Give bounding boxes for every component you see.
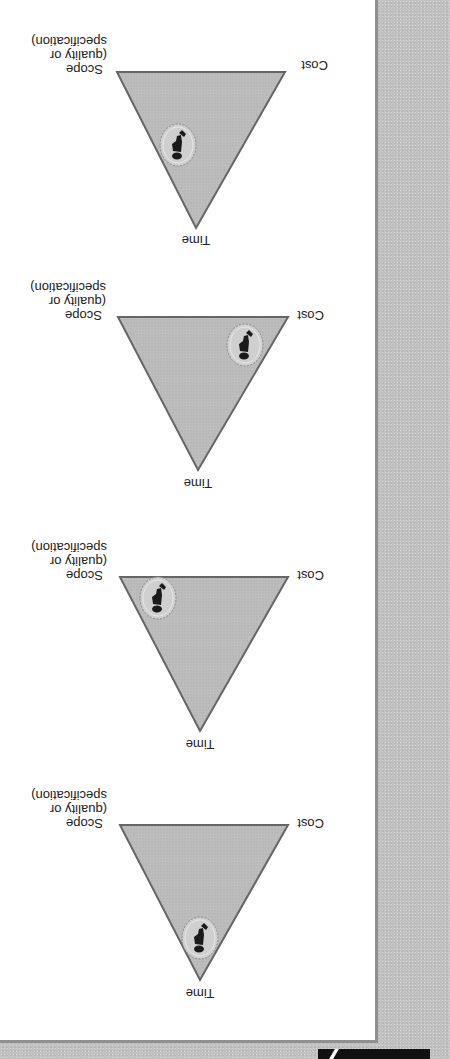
scope-sub-label-1: (quality or [49,554,107,569]
scope-sub-label-2: specification) [30,280,106,295]
scope-sub-label-2: specification) [31,540,107,555]
person-in-circle-icon [227,324,263,366]
triangle-diagram-1: Time Cost Scope (quality or specificatio… [31,788,324,1001]
person-in-circle-icon [140,577,176,619]
triangle-diagram-2: Time Cost Scope (quality or specificatio… [31,540,324,752]
triangles-canvas: Time Cost Scope (quality or specificatio… [0,0,450,1059]
cost-label: Cost [297,308,324,323]
scope-sub-label-2: specification) [31,34,107,49]
scope-sub-label-2: specification) [31,788,107,803]
scope-sub-label-1: (quality or [49,802,107,817]
triangle-diagram-4: Time Cost Scope (quality or specificatio… [31,34,328,248]
time-label: Time [186,737,214,752]
cost-label: Cost [297,568,324,583]
time-label: Time [186,986,214,1001]
figure-root: Time Cost Scope (quality or specificatio… [0,0,450,1059]
scope-label: Scope [66,62,103,77]
person-in-circle-icon [182,917,218,959]
person-in-circle-icon [160,124,196,166]
triangle-diagram-3: Time Cost Scope (quality or specificatio… [30,280,324,491]
time-label: Time [182,233,210,248]
cost-label: Cost [301,58,328,73]
triangle-shape [117,72,285,228]
scope-sub-label-1: (quality or [49,48,107,63]
scope-label: Scope [65,308,102,323]
triangle-shape [118,317,288,470]
scope-label: Scope [66,816,103,831]
cost-label: Cost [297,816,324,831]
scope-label: Scope [66,568,103,583]
scope-sub-label-1: (quality or [48,294,106,309]
time-label: Time [184,476,212,491]
